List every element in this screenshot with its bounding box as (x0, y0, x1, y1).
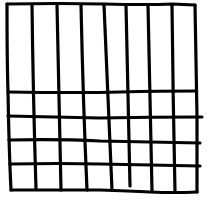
grid-border-top (7, 4, 195, 6)
grid-border-bottom (11, 190, 197, 193)
grid-row-line (8, 116, 202, 118)
grid-row-line (8, 91, 196, 93)
grid-border-left (7, 4, 11, 190)
grid-column-line (148, 5, 152, 191)
grid-column-line (32, 5, 36, 189)
grid-border-right (195, 5, 197, 192)
grid-diagram (0, 0, 213, 206)
grid-row-line (9, 140, 200, 143)
grid-row-line (10, 164, 200, 167)
grid-column-line (126, 5, 130, 186)
grid-column-line (104, 5, 112, 190)
